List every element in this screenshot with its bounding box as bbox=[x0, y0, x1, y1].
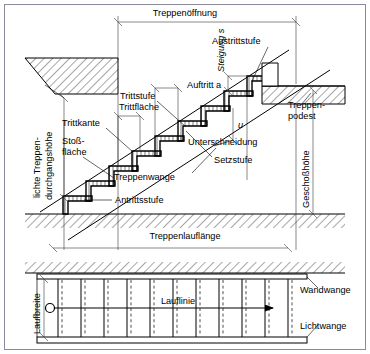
label-treppenpodest-line2: podest bbox=[288, 111, 316, 121]
plan-wall-hatch bbox=[25, 262, 345, 273]
plan-view: Laufbreite Lauflinie Wandwange Lichtwang… bbox=[25, 262, 351, 343]
label-lichte-durchgangshoehe-line1: lichte Treppen- bbox=[32, 137, 42, 198]
section-view: u bbox=[25, 8, 345, 252]
label-auftritt: Auftritt a bbox=[187, 80, 222, 90]
ceiling-slab-left bbox=[25, 58, 118, 94]
lauflinie-start-marker bbox=[46, 304, 55, 313]
label-setzstufe: Setzstufe bbox=[214, 155, 252, 165]
label-treppenoeffnung: Treppenöffnung bbox=[153, 8, 217, 18]
wandwange-rail bbox=[37, 274, 307, 279]
ground-floor-hatch bbox=[25, 214, 345, 228]
label-lauflinie: Lauflinie bbox=[161, 296, 195, 306]
label-treppenlauflaenge: Treppenlauflänge bbox=[149, 231, 220, 241]
label-treppenpodest-line1: Treppen- bbox=[288, 100, 325, 110]
label-trittstufe: Trittstufe bbox=[120, 91, 155, 101]
label-geschosshoehe: Geschoßhöhe bbox=[301, 150, 311, 208]
label-steigung: Steigung s bbox=[216, 28, 226, 72]
stair-diagram-figure: u bbox=[0, 0, 370, 354]
dimension-treppenlauflaenge bbox=[49, 244, 292, 252]
symbol-u: u bbox=[238, 120, 243, 130]
lichtwange-rail bbox=[37, 337, 307, 343]
label-trittflaeche: Trittfläche bbox=[119, 102, 159, 112]
label-lichtwange: Lichtwange bbox=[300, 321, 346, 331]
label-unterschneidung: Unterschneidung bbox=[188, 137, 257, 147]
label-laufbreite: Laufbreite bbox=[32, 293, 42, 334]
label-treppenwange: Treppenwange bbox=[114, 172, 175, 182]
label-wandwange: Wandwange bbox=[300, 285, 351, 295]
label-stossflaeche-line2: fläche bbox=[62, 147, 87, 157]
lauflinie bbox=[46, 304, 274, 313]
label-lichte-durchgangshoehe-line2: durchgangshöhe bbox=[44, 132, 54, 200]
stair-diagram-canvas: u bbox=[0, 0, 370, 354]
label-stossflaeche-line1: Stoß- bbox=[62, 136, 84, 146]
label-trittkante: Trittkante bbox=[62, 118, 100, 128]
label-antrittsstufe: Antrittsstufe bbox=[115, 195, 164, 205]
